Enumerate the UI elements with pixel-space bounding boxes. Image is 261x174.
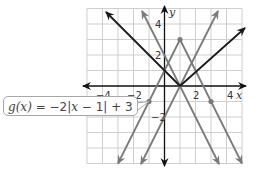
- fn-rest: − 1| + 3: [78, 100, 133, 114]
- coordinate-graph: −4 −2 2 4 4 2 −2 x y: [0, 0, 261, 174]
- point-g-right: [208, 99, 213, 104]
- y-tick--2: −2: [151, 112, 166, 123]
- fn-var: x: [71, 100, 78, 114]
- fn-name: g(x): [8, 100, 32, 114]
- x-tick-2: 2: [193, 90, 199, 101]
- equation-callout: g(x) = −2|x − 1| + 3: [3, 96, 138, 116]
- fn-equals: = −2|: [32, 100, 71, 114]
- x-axis-label: x: [236, 89, 243, 102]
- y-axis-label: y: [168, 6, 176, 19]
- y-tick-4: 4: [155, 19, 161, 30]
- x-tick-4: 4: [227, 90, 233, 101]
- point-vertex-g: [177, 37, 182, 42]
- y-tick-2: 2: [155, 50, 161, 61]
